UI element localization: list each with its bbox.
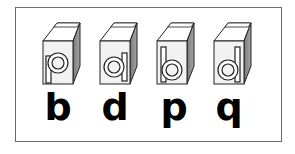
printed-letter-1: b xyxy=(43,88,73,126)
type-block-2 xyxy=(100,23,137,84)
printed-letter-2: d xyxy=(100,88,130,126)
type-block-1 xyxy=(43,23,80,84)
printed-letter-3: p xyxy=(159,88,189,126)
type-block-3 xyxy=(157,23,194,84)
type-blocks-illustration xyxy=(0,0,295,154)
printed-letter-4: q xyxy=(214,88,244,126)
type-block-4 xyxy=(214,23,251,84)
